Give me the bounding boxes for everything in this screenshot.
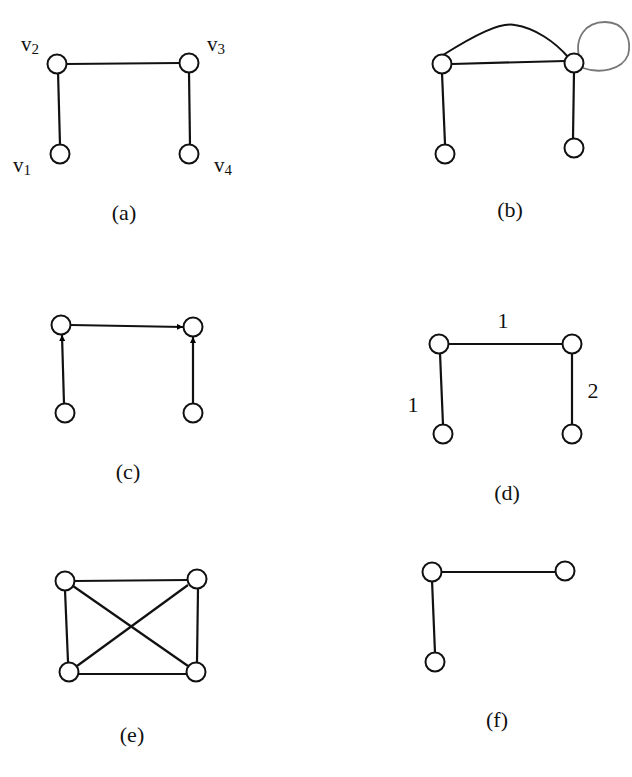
graph-figure: v2 v3 v1 v4 1 1 2 (a) (b) (c) (d) (e) (f…	[0, 0, 632, 777]
edge-v2-v3	[452, 61, 565, 64]
vertex-v1	[51, 145, 70, 164]
caption-c: (c)	[116, 459, 140, 485]
caption-b: (b)	[497, 197, 523, 223]
vertex-label-subscript: 3	[218, 41, 226, 57]
edge-weight-v3-v4: 2	[588, 378, 599, 404]
vertex-v3	[563, 335, 582, 354]
vertex-v2	[188, 570, 207, 589]
edge-v2-v4	[197, 589, 198, 662]
vertex-v3	[60, 663, 79, 682]
vertex-v3	[180, 54, 199, 73]
vertex-label-subscript: 2	[32, 41, 40, 57]
arc-v2-to-v3	[71, 325, 183, 327]
vertex-label-v2: v2	[21, 32, 39, 58]
vertex-v1	[56, 572, 75, 591]
vertex-v4	[184, 404, 203, 423]
vertex-v2	[52, 316, 71, 335]
vertex-label-base: v	[13, 153, 24, 177]
vertex-v3	[565, 54, 584, 73]
vertex-label-base: v	[207, 32, 218, 56]
edge-weight-v2-v3: 1	[498, 308, 509, 334]
edge-weight-v1-v2: 1	[408, 392, 419, 418]
self-loop-v3	[578, 22, 629, 71]
vertex-v2	[556, 562, 575, 581]
curved-edge-v2-v3	[443, 25, 568, 57]
vertex-v4	[180, 145, 199, 164]
panel-f-graph	[423, 562, 575, 672]
vertex-label-subscript: 4	[225, 162, 233, 178]
vertex-v2	[430, 335, 449, 354]
vertex-label-base: v	[21, 32, 32, 56]
vertex-label-base: v	[214, 153, 225, 177]
edge-v3-v4	[189, 72, 190, 145]
panel-d-graph	[430, 335, 582, 444]
vertex-v4	[187, 663, 206, 682]
panel-e-graph	[56, 570, 207, 682]
vertex-v1	[56, 404, 75, 423]
edge-v1-v3	[432, 580, 435, 653]
vertex-label-v1: v1	[13, 153, 31, 179]
vertex-v4	[565, 139, 584, 158]
edge-v1-v2	[442, 73, 445, 144]
panel-c-graph	[52, 316, 203, 423]
vertex-label-subscript: 1	[24, 162, 32, 178]
edge-v1-v2	[58, 71, 60, 145]
edge-v1-v3	[65, 590, 68, 662]
vertex-label-v4: v4	[214, 153, 232, 179]
panel-b-graph	[433, 22, 630, 164]
edge-v1-v2	[74, 580, 188, 581]
edge-v1-v2	[440, 353, 443, 425]
arc-v1-to-v2	[62, 335, 64, 404]
vertex-v4	[563, 425, 582, 444]
caption-f: (f)	[486, 707, 508, 733]
vertex-v2	[48, 55, 67, 74]
vertex-label-v3: v3	[207, 32, 225, 58]
caption-e: (e)	[120, 722, 144, 748]
vertex-v3	[426, 653, 445, 672]
graph-drawing	[0, 0, 632, 777]
caption-a: (a)	[112, 200, 136, 226]
vertex-v3	[184, 318, 203, 337]
panel-a-graph	[48, 54, 199, 164]
edge-v2-v3	[66, 63, 180, 64]
edge-v3-v4	[573, 72, 574, 138]
vertex-v1	[436, 145, 455, 164]
caption-d: (d)	[494, 480, 520, 506]
vertex-v2	[433, 55, 452, 74]
vertex-v1	[423, 563, 442, 582]
vertex-v1	[434, 425, 453, 444]
